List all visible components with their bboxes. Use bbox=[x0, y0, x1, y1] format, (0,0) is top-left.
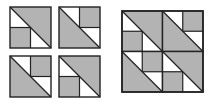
shaded-square bbox=[10, 28, 31, 49]
tile-b bbox=[59, 7, 100, 48]
quilt-diagram bbox=[0, 0, 209, 105]
big-block-tile-1 bbox=[122, 11, 163, 52]
shaded-square bbox=[122, 31, 142, 51]
tile-d bbox=[59, 56, 100, 97]
shaded-square bbox=[183, 11, 203, 31]
tile-a bbox=[10, 7, 51, 48]
shaded-square bbox=[59, 77, 80, 98]
big-block-tile-4 bbox=[163, 52, 204, 93]
big-block-tile-3 bbox=[122, 52, 163, 93]
shaded-square bbox=[80, 7, 101, 28]
shaded-square bbox=[163, 72, 183, 92]
shaded-square bbox=[31, 56, 52, 77]
shaded-square bbox=[142, 52, 162, 72]
tile-c bbox=[10, 56, 51, 97]
big-block-tile-2 bbox=[163, 11, 204, 52]
